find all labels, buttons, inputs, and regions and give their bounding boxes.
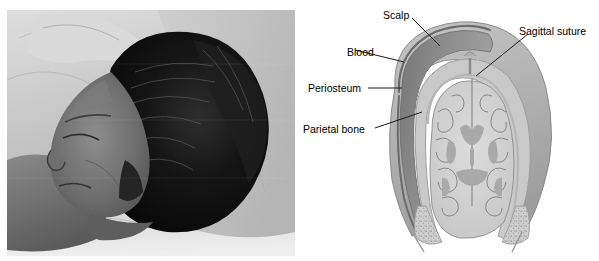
- label-parietal-bone: Parietal bone: [303, 124, 365, 135]
- label-periosteum: Periosteum: [308, 83, 361, 94]
- newborn-head-photograph: [7, 10, 295, 256]
- label-sagittal-suture: Sagittal suture: [519, 26, 586, 37]
- cephalohematoma-figure: Scalp Sagittal suture Blood Periosteum P…: [0, 0, 599, 261]
- third-ventricle: [470, 148, 474, 166]
- photograph-canvas: [7, 10, 295, 256]
- label-scalp: Scalp: [383, 10, 409, 21]
- label-blood: Blood: [347, 47, 374, 58]
